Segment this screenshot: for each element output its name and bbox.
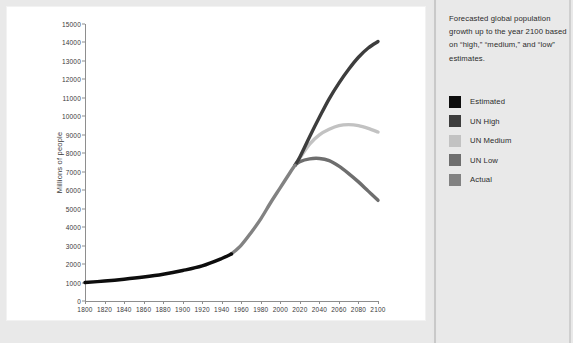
x-tick-mark — [144, 301, 145, 304]
y-tick-label: 8000 — [66, 150, 81, 157]
legend-item-label: UN Low — [470, 156, 498, 165]
x-tick-mark — [300, 301, 301, 304]
legend-item-label: UN High — [470, 117, 500, 126]
series-line-estimated — [85, 254, 232, 283]
y-tick-label: 1000 — [66, 279, 81, 286]
x-tick-mark — [183, 301, 184, 304]
x-tick-label: 2080 — [351, 306, 366, 313]
x-tick-mark — [358, 301, 359, 304]
legend-swatch-icon — [449, 174, 461, 186]
y-tick-label: 5000 — [66, 205, 81, 212]
x-axis-line — [85, 301, 379, 302]
chart-legend: EstimatedUN HighUN MediumUN LowActual — [449, 92, 567, 190]
x-tick-mark — [280, 301, 281, 304]
x-tick-label: 1940 — [214, 306, 229, 313]
x-tick-label: 1900 — [175, 306, 190, 313]
y-tick-label: 4000 — [66, 224, 81, 231]
plot-area: 0100020003000400050006000700080009000100… — [85, 24, 378, 301]
x-tick-mark — [124, 301, 125, 304]
y-tick-label: 7000 — [66, 168, 81, 175]
x-tick-mark — [261, 301, 262, 304]
chart-panel: Millions of people 010002000300040005000… — [7, 7, 425, 320]
legend-item[interactable]: UN Medium — [449, 131, 567, 151]
legend-swatch-icon — [449, 135, 461, 147]
x-tick-mark — [378, 301, 379, 304]
y-axis-title-wrap: Millions of people — [29, 24, 91, 301]
y-tick-label: 2000 — [66, 261, 81, 268]
x-tick-label: 1920 — [195, 306, 210, 313]
y-tick-label: 3000 — [66, 242, 81, 249]
x-tick-label: 2060 — [331, 306, 346, 313]
y-axis-title: Millions of people — [55, 132, 64, 194]
y-tick-label: 14000 — [62, 39, 81, 46]
legend-swatch-icon — [449, 96, 461, 108]
y-tick-label: 12000 — [62, 76, 81, 83]
x-tick-label: 1980 — [253, 306, 268, 313]
y-tick-label: 15000 — [62, 21, 81, 28]
legend-item[interactable]: Actual — [449, 170, 567, 190]
legend-item[interactable]: Estimated — [449, 92, 567, 112]
y-tick-label: 13000 — [62, 57, 81, 64]
legend-swatch-icon — [449, 115, 461, 127]
x-tick-label: 1820 — [97, 306, 112, 313]
y-tick-label: 9000 — [66, 131, 81, 138]
x-tick-label: 1960 — [234, 306, 249, 313]
screen-root: Millions of people 010002000300040005000… — [0, 0, 573, 343]
right-page-edge — [569, 0, 571, 343]
x-tick-label: 2040 — [312, 306, 327, 313]
y-tick-label: 10000 — [62, 113, 81, 120]
legend-item-label: Estimated — [470, 97, 505, 106]
y-tick-label: 6000 — [66, 187, 81, 194]
x-tick-mark — [202, 301, 203, 304]
x-tick-label: 1880 — [155, 306, 170, 313]
x-tick-mark — [319, 301, 320, 304]
legend-item[interactable]: UN Low — [449, 151, 567, 171]
chart-caption: Forecasted global population growth up t… — [449, 12, 567, 65]
x-tick-label: 2000 — [273, 306, 288, 313]
series-line-un-low — [295, 158, 378, 200]
x-tick-mark — [339, 301, 340, 304]
x-tick-mark — [105, 301, 106, 304]
legend-swatch-icon — [449, 154, 461, 166]
x-tick-mark — [163, 301, 164, 304]
y-tick-label: 0 — [77, 298, 81, 305]
x-tick-label: 1860 — [136, 306, 151, 313]
legend-item-label: Actual — [470, 175, 492, 184]
x-tick-mark — [85, 301, 86, 304]
x-tick-mark — [241, 301, 242, 304]
legend-item-label: UN Medium — [470, 136, 511, 145]
chart-series-group — [85, 24, 378, 301]
legend-item[interactable]: UN High — [449, 112, 567, 132]
panel-divider — [434, 0, 436, 343]
x-tick-label: 1840 — [116, 306, 131, 313]
x-tick-label: 1800 — [77, 306, 92, 313]
y-tick-label: 11000 — [62, 94, 81, 101]
series-line-actual — [232, 165, 295, 254]
x-tick-label: 2020 — [292, 306, 307, 313]
x-tick-label: 2100 — [370, 306, 385, 313]
x-tick-mark — [222, 301, 223, 304]
